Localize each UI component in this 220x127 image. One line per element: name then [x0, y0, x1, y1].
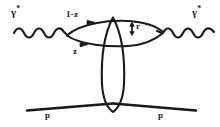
photon-left-wavy-line	[14, 28, 68, 37]
proton-line-incoming	[27, 104, 113, 111]
gamma-right-star-glyph: *	[197, 4, 201, 13]
photon-right-wavy-line	[157, 28, 214, 37]
gamma-left-star-glyph: *	[16, 4, 20, 13]
gamma-star-right-label: γ*	[192, 5, 201, 18]
diagram-canvas	[0, 0, 220, 127]
feynman-diagram-figure: γ* γ* 1-z z r p p	[0, 0, 220, 127]
size-arrow-head-down-icon	[129, 31, 134, 36]
momentum-fraction-top-label: 1-z	[66, 10, 78, 19]
proton-outgoing-label: p	[158, 111, 163, 120]
proton-line-outgoing	[113, 104, 196, 111]
proton-incoming-label: p	[45, 111, 50, 120]
transverse-size-label: r	[136, 22, 140, 31]
gluon-exchange-ellipse	[102, 18, 124, 113]
gamma-star-left-label: γ*	[11, 5, 20, 18]
momentum-fraction-bottom-label: z	[73, 47, 77, 56]
